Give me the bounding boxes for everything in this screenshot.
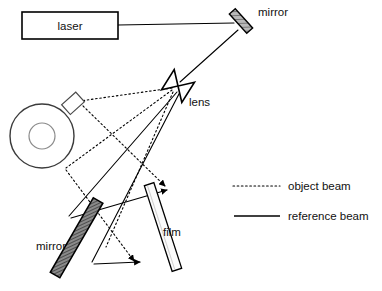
cup-inner-circle [29, 123, 55, 149]
mirror-top-label: mirror [258, 6, 288, 18]
film-label: film [163, 226, 181, 238]
diagram-canvas: laser mirror lens mirror [0, 0, 382, 291]
laser-label: laser [58, 20, 83, 32]
mirror-bottom-label: mirror [36, 240, 66, 252]
lens-label: lens [189, 96, 210, 108]
holography-diagram: laser mirror lens mirror [0, 0, 382, 291]
legend-label-object-beam: object beam [288, 180, 351, 192]
laser-component: laser [22, 12, 118, 39]
legend-label-reference-beam: reference beam [288, 210, 369, 222]
